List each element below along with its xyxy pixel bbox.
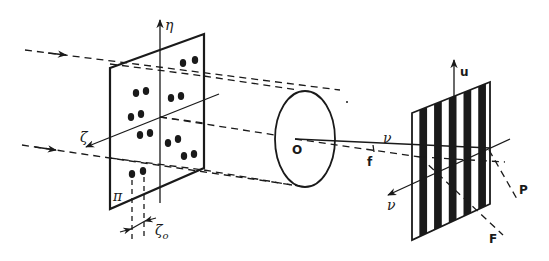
aperture-dot	[165, 139, 171, 147]
aperture-dot	[129, 170, 135, 178]
u-label: u	[460, 65, 469, 79]
optical-rays-to-grating: ν f	[295, 130, 490, 169]
zeta0-label: ζo	[155, 222, 169, 241]
zeta-label: ζ	[80, 129, 89, 145]
aperture-dot	[178, 92, 184, 100]
P-label: P	[519, 183, 528, 197]
nu-top-label: ν	[383, 130, 392, 146]
grating-stripe	[464, 89, 472, 216]
aperture-dot	[140, 167, 146, 175]
lower-ray	[204, 170, 292, 185]
zeta-axis: ζ	[80, 94, 219, 147]
aperture-dot	[137, 131, 143, 139]
aperture-dot	[138, 110, 144, 118]
aperture-dot	[175, 135, 181, 143]
rays-over-plane	[110, 64, 204, 170]
aperture-dot	[143, 87, 149, 95]
aperture-dot	[191, 150, 197, 158]
aperture-dot	[180, 59, 186, 67]
aperture-dot	[147, 129, 153, 137]
pi-label: π	[112, 188, 123, 204]
incoming-rays	[22, 50, 340, 186]
stray-dot	[346, 101, 348, 103]
grating-stripe	[434, 101, 442, 230]
optical-fourier-diagram: η ζ π ζo O ν f ν	[0, 0, 549, 261]
eta-label: η	[165, 17, 174, 33]
nu-arrow-label: ν	[387, 197, 396, 213]
aperture-dot	[133, 89, 139, 97]
aperture-dot	[192, 56, 198, 64]
origin-label: O	[292, 143, 302, 157]
upper-ray	[204, 76, 298, 90]
aperture-dot	[181, 152, 187, 160]
F-label: F	[489, 232, 497, 246]
aperture-dot	[168, 94, 174, 102]
f-label: f	[367, 155, 373, 169]
grating-stripe	[478, 84, 486, 210]
grating-stripe	[419, 107, 427, 237]
aperture-dot	[128, 113, 134, 121]
